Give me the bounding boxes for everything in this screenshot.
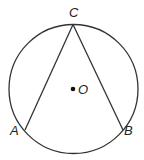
label-o: O — [78, 82, 88, 97]
circle-diagram: C O A B — [0, 0, 144, 160]
label-b: B — [124, 123, 133, 138]
chord-ca — [25, 25, 73, 131]
center-point — [71, 87, 76, 92]
label-a: A — [9, 123, 19, 138]
label-c: C — [69, 5, 79, 20]
